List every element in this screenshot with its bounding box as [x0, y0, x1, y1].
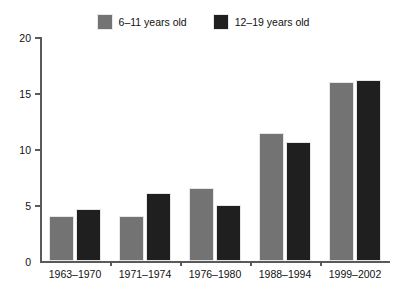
x-axis-label: 1999–2002: [320, 268, 390, 280]
bar: [286, 142, 311, 261]
bar-group: [40, 37, 110, 261]
x-axis-tick: [320, 261, 322, 266]
bar: [329, 82, 354, 261]
legend-swatch-12-19-icon: [213, 14, 229, 30]
chart-legend: 6–11 years old 12–19 years old: [0, 14, 406, 30]
x-axis-label: 1976–1980: [180, 268, 250, 280]
x-axis-tick: [110, 261, 112, 266]
y-axis-tick-label-20: 20: [19, 32, 31, 44]
bar-chart: 6–11 years old 12–19 years old 05101520 …: [0, 0, 406, 297]
y-axis-tick-label-15: 15: [19, 88, 31, 100]
x-axis-label: 1971–1974: [110, 268, 180, 280]
x-axis-tick: [250, 261, 252, 266]
bar-group: [250, 37, 320, 261]
y-axis-tick-label-5: 5: [25, 200, 31, 212]
x-axis-line: [40, 261, 390, 263]
bar: [119, 216, 144, 261]
bar-group: [180, 37, 250, 261]
bar: [76, 209, 101, 261]
bar: [49, 216, 74, 261]
y-axis-tick-label-10: 10: [19, 144, 31, 156]
bar: [216, 205, 241, 261]
bar: [356, 80, 381, 261]
y-axis-tick-0: 0: [35, 261, 40, 263]
x-axis-label: 1963–1970: [40, 268, 110, 280]
x-axis-label: 1988–1994: [250, 268, 320, 280]
legend-swatch-6-11-icon: [97, 14, 113, 30]
plot-area: 05101520 1963–19701971–19741976–19801988…: [40, 37, 390, 261]
x-axis-tick: [180, 261, 182, 266]
legend-label-6-11: 6–11 years old: [119, 17, 187, 28]
legend-item-12-19: 12–19 years old: [213, 14, 310, 30]
bar: [259, 133, 284, 261]
bar: [189, 188, 214, 261]
bar-group: [110, 37, 180, 261]
bar-group: [320, 37, 390, 261]
y-axis-tick-label-0: 0: [25, 256, 31, 268]
bar: [146, 193, 171, 261]
legend-item-6-11: 6–11 years old: [97, 14, 187, 30]
legend-label-12-19: 12–19 years old: [235, 17, 310, 28]
